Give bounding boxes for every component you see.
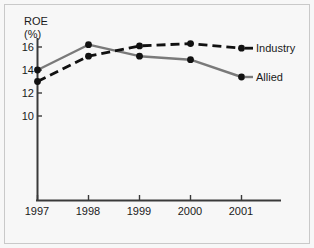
legend-connectors xyxy=(245,48,253,77)
industry-point-2001 xyxy=(238,45,245,52)
industry-point-1998 xyxy=(85,53,92,60)
allied-point-1999 xyxy=(136,53,143,60)
allied-point-2000 xyxy=(187,56,194,63)
legend-label-allied: Allied xyxy=(256,71,283,83)
industry-point-1999 xyxy=(136,43,143,50)
plot-area xyxy=(0,0,314,248)
series-industry xyxy=(34,40,245,85)
allied-point-2001 xyxy=(238,74,245,81)
allied-line xyxy=(38,45,242,77)
axes xyxy=(36,38,281,201)
industry-point-2000 xyxy=(187,40,194,47)
allied-point-1997 xyxy=(34,67,41,74)
legend-label-industry: Industry xyxy=(256,42,295,54)
industry-point-1997 xyxy=(34,78,41,85)
allied-point-1998 xyxy=(85,41,92,48)
chart-figure: ROE (%) 16 14 12 10 1997 1998 1999 2000 … xyxy=(0,0,314,248)
